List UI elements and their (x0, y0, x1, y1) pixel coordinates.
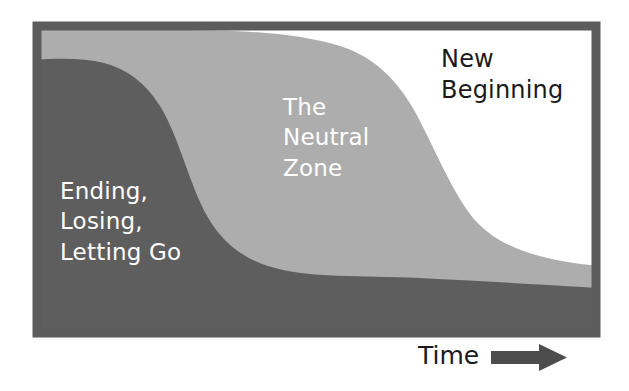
zone-label-new-beginning: New Beginning (441, 44, 563, 106)
time-axis-label: Time (418, 341, 479, 370)
time-arrow-icon (489, 342, 569, 374)
zone-label-ending: Ending, Losing, Letting Go (60, 176, 181, 267)
zone-label-neutral: The Neutral Zone (283, 92, 369, 183)
